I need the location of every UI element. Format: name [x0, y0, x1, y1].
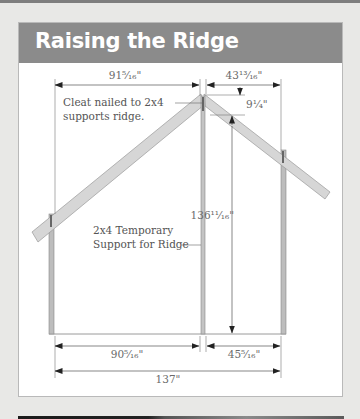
- left-stud-nail-detail: [50, 215, 52, 227]
- cleat-label-line1: Cleat nailed to 2x4: [63, 96, 164, 108]
- dim-bottom-right: 45⁵⁄₁₆": [228, 348, 261, 360]
- right-wall-stud: [281, 150, 286, 334]
- dim-ridge-height: 136¹¹⁄₁₆": [191, 209, 234, 221]
- dim-ridge-drop: 9¹⁄₄": [246, 98, 268, 110]
- right-stud-nail-detail: [282, 151, 284, 163]
- ridge-diagram: 91⁵⁄₁₆" 43¹³⁄₁₆" 9¹⁄₄" 136¹¹⁄₁₆" 90⁵⁄₁₆"…: [0, 0, 360, 419]
- dim-top-left-run: 91⁵⁄₁₆": [109, 69, 142, 81]
- dim-top-right-run: 43¹³⁄₁₆": [226, 69, 263, 81]
- support-label-line1: 2x4 Temporary: [93, 224, 173, 236]
- dim-overall-width: 137": [156, 373, 181, 385]
- dim-bottom-left: 90⁵⁄₁₆": [111, 348, 144, 360]
- support-label-line2: Support for Ridge: [93, 238, 189, 250]
- cleat-label-line2: supports ridge.: [63, 110, 144, 122]
